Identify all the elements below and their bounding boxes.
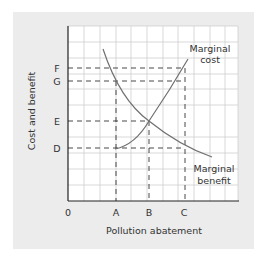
y-tick-d: D: [53, 143, 60, 154]
x-tick-a: A: [113, 207, 120, 218]
y-axis-label: Cost and benefit: [26, 71, 37, 150]
marginal-benefit-label-line2: benefit: [197, 175, 231, 186]
x-axis-label: Pollution abatement: [106, 225, 202, 236]
marginal-cost-label-line1: Marginal: [190, 43, 231, 54]
x-tick-c: C: [181, 207, 188, 218]
y-tick-e: E: [54, 116, 60, 127]
x-tick-0: 0: [65, 207, 71, 218]
x-tick-b: B: [146, 207, 153, 218]
y-tick-f: F: [54, 63, 59, 74]
marginal-benefit-label-line1: Marginal: [194, 163, 235, 174]
y-tick-g: G: [53, 76, 60, 87]
chart-svg: F G E D 0 A B C Pollution abatement Cost…: [0, 0, 266, 262]
marginal-cost-label-line2: cost: [200, 54, 220, 65]
